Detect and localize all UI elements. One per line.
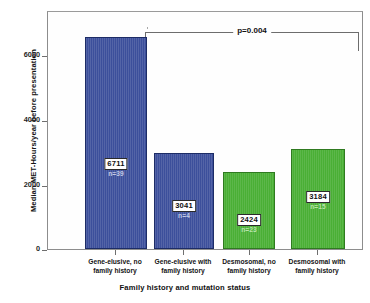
bar-n-label: n=39 — [108, 170, 124, 177]
bar-gene-elusive-no-family-history[interactable]: 6711 n=39 — [85, 37, 147, 249]
print-speck — [147, 27, 148, 29]
x-axis-label-desmosomal-with-family-history: Desmosomal with family history — [274, 257, 360, 276]
x-axis-tick-mark — [115, 250, 116, 255]
x-axis-tick-mark — [249, 250, 250, 255]
bracket-right-tick — [358, 32, 359, 51]
bar-n-label: n=15 — [310, 203, 326, 210]
plot-area: p=0.004 6711 n=39 3041 n=4 2424 n=23 318… — [47, 11, 363, 250]
bar-desmosomal-no-family-history[interactable]: 2424 n=23 — [223, 172, 275, 249]
x-axis-tick-mark — [317, 250, 318, 255]
bar-value-label: 6711 — [104, 158, 127, 170]
y-axis-tick-label: 2000 — [24, 180, 40, 189]
bar-n-label: n=23 — [241, 226, 257, 233]
y-axis-tick-label: 4000 — [24, 115, 40, 124]
bar-desmosomal-with-family-history[interactable]: 3184 n=15 — [291, 149, 345, 249]
bar-gene-elusive-with-family-history[interactable]: 3041 n=4 — [154, 153, 214, 249]
p-value-label: p=0.004 — [233, 26, 271, 35]
y-axis-tick-label: 6000 — [24, 50, 40, 59]
bar-n-label: n=4 — [178, 212, 190, 219]
x-label-line-2: family history — [274, 266, 360, 275]
x-axis-title: Family history and mutation status — [0, 283, 370, 292]
x-label-line-1: Desmosomal with — [274, 257, 360, 266]
bar-chart-figure: Median MET-Hours/year before presentatio… — [0, 0, 370, 303]
bar-value-label: 3041 — [172, 200, 196, 212]
y-axis-tick-mark — [42, 250, 47, 251]
y-axis-tick-label: 0 — [36, 244, 40, 253]
bar-value-label: 2424 — [237, 214, 261, 226]
x-axis-tick-mark — [183, 250, 184, 255]
significance-bracket: p=0.004 — [145, 32, 359, 52]
bar-value-label: 3184 — [306, 191, 330, 203]
